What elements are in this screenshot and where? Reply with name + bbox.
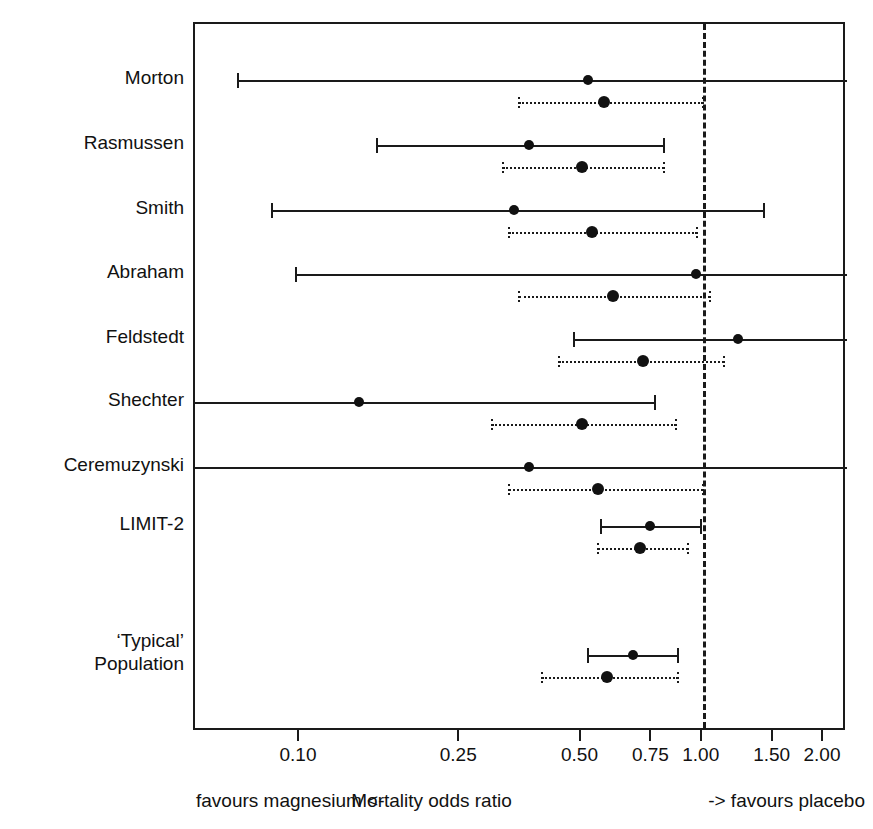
ci-line-solid: [195, 402, 655, 404]
ci-cap-lower: [573, 332, 575, 347]
x-tick-label: 0.10: [280, 744, 317, 766]
ci-line-dotted: [509, 232, 698, 234]
point-estimate-marker: [576, 418, 588, 430]
x-tick-label: 2.00: [804, 744, 841, 766]
ci-cap-lower: [491, 419, 493, 430]
ci-cap-lower: [558, 356, 560, 367]
x-tick-label: 1.00: [682, 744, 719, 766]
point-estimate-marker: [628, 650, 638, 660]
x-tick-mark: [457, 730, 459, 741]
study-label-line: LIMIT-2: [120, 512, 184, 535]
ci-cap-upper: [663, 162, 665, 173]
ci-line-solid: [195, 467, 847, 469]
ci-cap-lower: [518, 97, 520, 108]
x-tick-label: 1.50: [753, 744, 790, 766]
x-tick-label: 0.25: [440, 744, 477, 766]
ci-line-solid: [377, 145, 664, 147]
ci-cap-lower: [597, 543, 599, 554]
point-estimate-marker: [524, 140, 534, 150]
point-estimate-marker: [645, 521, 655, 531]
point-estimate-marker: [733, 334, 743, 344]
point-estimate-marker: [691, 269, 701, 279]
study-label-line: Population: [94, 652, 184, 675]
ci-cap-upper: [696, 227, 698, 238]
point-estimate-marker: [601, 671, 613, 683]
x-tick-mark: [821, 730, 823, 741]
study-label-column: MortonRasmussenSmithAbrahamFeldstedtShec…: [0, 0, 184, 829]
ci-cap-upper: [723, 356, 725, 367]
point-estimate-marker: [509, 205, 519, 215]
point-estimate-marker: [576, 161, 588, 173]
ci-cap-lower: [587, 648, 589, 663]
ci-cap-lower: [502, 162, 504, 173]
ci-cap-lower: [237, 73, 239, 88]
ci-cap-upper: [663, 138, 665, 153]
axis-annotation-right: -> favours placebo: [708, 790, 865, 812]
point-estimate-marker: [586, 226, 598, 238]
point-estimate-marker: [634, 542, 646, 554]
study-label-smith: Smith: [135, 196, 184, 219]
point-estimate-marker: [524, 462, 534, 472]
study-label-line: Smith: [135, 196, 184, 219]
ci-cap-lower: [600, 519, 602, 534]
plot-area: [195, 24, 843, 728]
ci-cap-lower: [518, 291, 520, 302]
study-label-line: Rasmussen: [84, 131, 184, 154]
study-label-feldstedt: Feldstedt: [106, 325, 184, 348]
x-tick-mark: [771, 730, 773, 741]
ci-cap-upper: [677, 672, 679, 683]
ci-cap-upper: [654, 395, 656, 410]
ci-cap-upper: [677, 648, 679, 663]
ci-cap-upper: [763, 203, 765, 218]
study-label-abraham: Abraham: [107, 260, 184, 283]
x-tick-label: 0.50: [561, 744, 598, 766]
ci-cap-lower: [508, 227, 510, 238]
point-estimate-marker: [583, 75, 593, 85]
point-estimate-marker: [607, 290, 619, 302]
study-label-ceremuzynski: Ceremuzynski: [64, 453, 184, 476]
ci-cap-lower: [541, 672, 543, 683]
x-tick-mark: [700, 730, 702, 741]
x-tick-mark: [649, 730, 651, 741]
study-label-line: Ceremuzynski: [64, 453, 184, 476]
ci-cap-upper: [700, 519, 702, 534]
ci-line-solid: [238, 80, 847, 82]
point-estimate-marker: [637, 355, 649, 367]
ci-cap-lower: [508, 484, 510, 495]
reference-line-or-1: [703, 24, 706, 728]
study-label-typical-population: ‘Typical’Population: [94, 629, 184, 675]
x-tick-label: 0.75: [632, 744, 669, 766]
x-tick-mark: [297, 730, 299, 741]
study-label-line: Abraham: [107, 260, 184, 283]
point-estimate-marker: [592, 483, 604, 495]
point-estimate-marker: [598, 96, 610, 108]
plot-frame: [193, 22, 845, 730]
study-label-line: Shechter: [108, 388, 184, 411]
forest-plot-figure: MortonRasmussenSmithAbrahamFeldstedtShec…: [0, 0, 873, 829]
ci-cap-upper: [709, 291, 711, 302]
study-label-line: ‘Typical’: [94, 629, 184, 652]
ci-cap-lower: [271, 203, 273, 218]
study-label-shechter: Shechter: [108, 388, 184, 411]
ci-cap-lower: [376, 138, 378, 153]
ci-cap-lower: [295, 267, 297, 282]
ci-cap-upper: [675, 419, 677, 430]
ci-cap-upper: [687, 543, 689, 554]
study-label-line: Feldstedt: [106, 325, 184, 348]
ci-line-solid: [574, 339, 847, 341]
study-label-limit-2: LIMIT-2: [120, 512, 184, 535]
point-estimate-marker: [354, 397, 364, 407]
ci-line-dotted: [509, 489, 703, 491]
study-label-line: Morton: [125, 66, 184, 89]
ci-line-solid: [296, 274, 847, 276]
x-tick-mark: [579, 730, 581, 741]
study-label-rasmussen: Rasmussen: [84, 131, 184, 154]
study-label-morton: Morton: [125, 66, 184, 89]
ci-line-dotted: [519, 102, 703, 104]
